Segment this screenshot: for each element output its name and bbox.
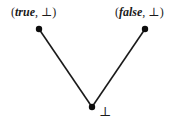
node-label-true-bottom: (true, ⊥)	[11, 6, 56, 18]
edge-bottom-to-false	[92, 29, 145, 107]
hasse-diagram: (true, ⊥) (false, ⊥) ⊥	[0, 0, 182, 123]
node-dot-true-bottom	[36, 26, 42, 32]
node-label-false-bottom: (false, ⊥)	[115, 6, 164, 18]
bottom-symbol: ⊥	[41, 5, 52, 19]
value-true: true	[15, 5, 35, 19]
node-dot-bottom	[89, 104, 95, 110]
close-paren: )	[160, 5, 164, 19]
value-false: false	[119, 5, 142, 19]
node-dot-false-bottom	[142, 26, 148, 32]
bottom-symbol: ⊥	[148, 5, 159, 19]
edge-bottom-to-true	[39, 29, 92, 107]
node-label-bottom: ⊥	[99, 106, 111, 118]
close-paren: )	[52, 5, 56, 19]
